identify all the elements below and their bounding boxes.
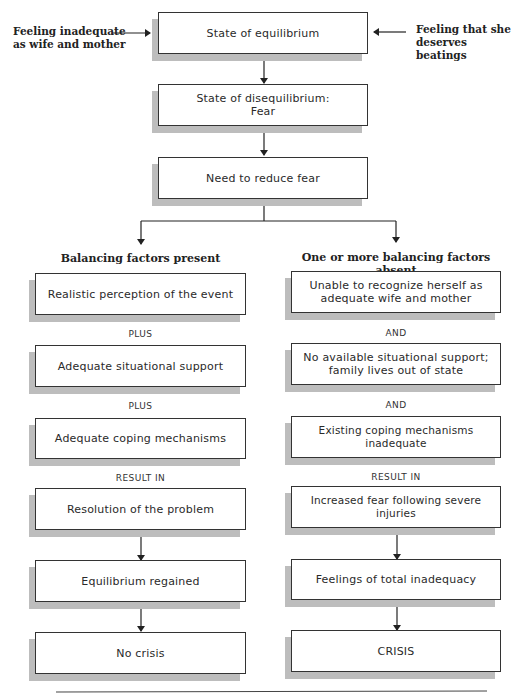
box-label: No crisis: [116, 647, 164, 660]
side-input-left: Feeling inadequate as wife and mother: [13, 25, 126, 51]
box-need-to-reduce-fear: Need to reduce fear: [158, 157, 368, 199]
box-label: State of disequilibrium:: [196, 92, 329, 105]
box-label: Equilibrium regained: [81, 575, 199, 588]
connector-label: PLUS: [35, 401, 246, 411]
box-label: Existing coping mechanisms inadequate: [292, 424, 500, 450]
side-input-right-line: Feeling that she: [416, 23, 517, 36]
box-label: Unable to recognize herself as: [309, 279, 482, 292]
box-label: Realistic perception of the event: [48, 288, 233, 301]
box-left-factor-1: Realistic perception of the event: [35, 273, 246, 315]
side-input-right: Feeling that she deserves beatings: [416, 23, 517, 62]
box-label: Increased fear following severe injuries: [292, 494, 500, 520]
box-label: adequate wife and mother: [321, 292, 472, 305]
box-right-factor-1: Unable to recognize herself as adequate …: [291, 271, 501, 313]
box-label: Feelings of total inadequacy: [316, 573, 477, 586]
box-left-factor-2: Adequate situational support: [35, 345, 246, 387]
box-label: No available situational support;: [303, 351, 488, 364]
box-right-outcome-1: Increased fear following severe injuries: [291, 486, 501, 528]
bottom-rule: [56, 691, 487, 692]
box-label: Need to reduce fear: [206, 172, 320, 185]
box-left-outcome-3: No crisis: [35, 632, 246, 674]
box-right-factor-2: No available situational support; family…: [291, 343, 501, 385]
box-left-outcome-1: Resolution of the problem: [35, 488, 246, 530]
heading-balancing-present: Balancing factors present: [35, 252, 246, 265]
box-label: State of equilibrium: [207, 27, 320, 40]
box-state-of-equilibrium: State of equilibrium: [158, 12, 368, 54]
box-label: Fear: [251, 105, 276, 118]
box-label: Adequate coping mechanisms: [55, 432, 226, 445]
side-input-left-line: Feeling inadequate: [13, 25, 126, 38]
connector-label: AND: [291, 400, 501, 410]
connector-label: PLUS: [35, 329, 246, 339]
box-label: family lives out of state: [329, 364, 464, 377]
box-state-of-disequilibrium: State of disequilibrium: Fear: [158, 84, 368, 126]
box-left-factor-3: Adequate coping mechanisms: [35, 418, 246, 459]
box-label: Resolution of the problem: [67, 503, 214, 516]
connector-label: RESULT IN: [291, 472, 501, 482]
box-left-outcome-2: Equilibrium regained: [35, 560, 246, 602]
box-label: CRISIS: [378, 645, 415, 658]
connector-label: AND: [291, 328, 501, 338]
box-right-factor-3: Existing coping mechanisms inadequate: [291, 416, 501, 458]
connector-label: RESULT IN: [35, 473, 246, 483]
box-right-outcome-3: CRISIS: [291, 630, 501, 672]
side-input-right-line: deserves beatings: [416, 36, 517, 62]
box-label: Adequate situational support: [58, 360, 223, 373]
box-right-outcome-2: Feelings of total inadequacy: [291, 559, 501, 600]
side-input-left-line: as wife and mother: [13, 38, 126, 51]
